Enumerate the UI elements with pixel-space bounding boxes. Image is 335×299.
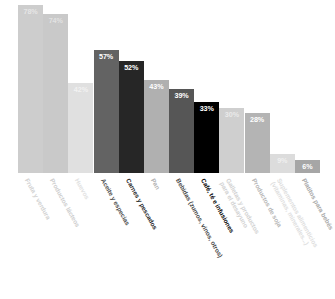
bar-slot[interactable]: 33% — [194, 0, 219, 173]
bar-value-label: 39% — [169, 92, 194, 100]
bar-value-label: 78% — [18, 8, 43, 16]
bar-value-label: 43% — [144, 83, 169, 91]
bar-value-label: 6% — [295, 163, 320, 171]
bar-value-label: 30% — [219, 111, 244, 119]
bar-slot[interactable]: 42% — [68, 0, 93, 173]
bar-slot[interactable]: 74% — [43, 0, 68, 173]
bar-slot[interactable]: 57% — [94, 0, 119, 173]
bar[interactable]: 52% — [119, 61, 144, 173]
category-axis-label: Huevos — [74, 177, 91, 200]
bar[interactable]: 39% — [169, 89, 194, 173]
bar[interactable]: 9% — [270, 154, 295, 173]
category-axis-label: Bebidas (zumos, vinos, otros) — [175, 177, 224, 259]
bar[interactable]: 33% — [194, 102, 219, 173]
bar-slot[interactable]: 78% — [18, 0, 43, 173]
chart-plot-area: 78%74%42%57%52%43%39%33%30%28%9%6% — [18, 0, 320, 173]
bar-value-label: 42% — [68, 86, 93, 94]
category-axis-label: Fruta y verdura — [24, 177, 52, 220]
bar[interactable]: 78% — [18, 5, 43, 173]
bar-slot[interactable]: 30% — [219, 0, 244, 173]
bar-slot[interactable]: 28% — [245, 0, 270, 173]
bar-value-label: 57% — [94, 53, 119, 61]
bar[interactable]: 42% — [68, 83, 93, 173]
bar[interactable]: 30% — [219, 108, 244, 173]
bar-value-label: 74% — [43, 17, 68, 25]
chart-category-axis: Fruta y verduraProductos lácteosHuevosAc… — [18, 173, 320, 299]
bar-slot[interactable]: 6% — [295, 0, 320, 173]
bar-value-label: 52% — [119, 64, 144, 72]
bar-value-label: 9% — [270, 157, 295, 165]
bar-value-label: 28% — [245, 116, 270, 124]
bar[interactable]: 43% — [144, 80, 169, 173]
bar[interactable]: 74% — [43, 14, 68, 173]
bar-slot[interactable]: 43% — [144, 0, 169, 173]
bar-slot[interactable]: 52% — [119, 0, 144, 173]
chart-baseline — [18, 172, 320, 173]
bar-slot[interactable]: 39% — [169, 0, 194, 173]
bar[interactable]: 57% — [94, 50, 119, 173]
bar[interactable]: 28% — [245, 113, 270, 173]
category-axis-label: Pan — [150, 177, 162, 191]
bar-value-label: 33% — [194, 105, 219, 113]
bar-slot[interactable]: 9% — [270, 0, 295, 173]
